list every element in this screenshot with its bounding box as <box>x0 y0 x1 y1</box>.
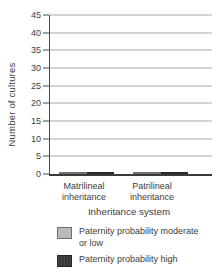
x-category-label-matrilineal: Matrilineal inheritance <box>47 181 121 204</box>
gridline <box>50 138 212 139</box>
y-tick-mark <box>43 50 49 51</box>
y-tick-mark <box>43 156 49 157</box>
y-tick-mark <box>43 103 49 104</box>
y-tick-label: 30 <box>31 63 41 73</box>
gridline <box>50 50 212 51</box>
y-tick-label: 0 <box>36 169 41 179</box>
gridline <box>50 103 212 104</box>
x-category-label-patrilineal: Patrilineal inheritance <box>115 181 189 204</box>
y-tick-mark <box>43 138 49 139</box>
legend-swatch-dark-icon <box>57 255 72 267</box>
y-tick-label: 25 <box>31 81 41 91</box>
y-tick-mark <box>43 32 49 33</box>
y-tick-mark <box>43 68 49 69</box>
bar <box>59 172 87 174</box>
gridline <box>50 68 212 69</box>
gridline <box>50 85 212 86</box>
legend-item-moderate-low: Paternity probability moderate or low <box>57 226 199 249</box>
bar-chart-figure: Number of cultures 051015202530354045 Ma… <box>0 0 217 278</box>
y-tick-mark <box>43 121 49 122</box>
y-tick-mark <box>43 174 49 175</box>
y-axis-title: Number of cultures <box>6 25 17 185</box>
y-tick-label: 10 <box>31 134 41 144</box>
bar-group <box>59 172 114 174</box>
gridline <box>50 156 212 157</box>
bar <box>87 172 114 174</box>
plot-area: 051015202530354045 <box>49 15 212 176</box>
x-axis-title: Inheritance system <box>45 206 213 217</box>
bar <box>133 172 161 174</box>
y-tick-label: 15 <box>31 116 41 126</box>
gridline <box>50 32 212 33</box>
bar <box>161 172 188 174</box>
gridline <box>50 15 212 16</box>
y-tick-label: 40 <box>31 28 41 38</box>
y-tick-label: 20 <box>31 98 41 108</box>
gridline <box>50 121 212 122</box>
y-tick-mark <box>43 15 49 16</box>
legend-label: Paternity probability high <box>79 254 178 266</box>
legend-item-high: Paternity probability high <box>57 254 199 267</box>
y-tick-mark <box>43 85 49 86</box>
legend-swatch-gray-icon <box>57 227 72 239</box>
y-tick-label: 35 <box>31 45 41 55</box>
y-tick-label: 45 <box>31 10 41 20</box>
y-tick-label: 5 <box>36 151 41 161</box>
legend-label: Paternity probability moderate or low <box>79 226 199 249</box>
legend: Paternity probability moderate or low Pa… <box>57 226 199 267</box>
bar-group <box>133 172 188 174</box>
